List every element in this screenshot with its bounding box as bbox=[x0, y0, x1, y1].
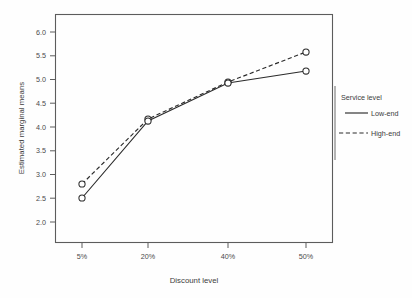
x-axis-title: Discount level bbox=[170, 276, 219, 285]
x-axis-ticks bbox=[82, 243, 306, 249]
y-axis-ticks bbox=[50, 32, 56, 222]
y-tick-labels: 6.0 5.5 5.0 4.5 4.0 3.5 3.0 2.5 2.0 bbox=[36, 28, 46, 227]
series-markers-high-end bbox=[79, 49, 309, 187]
legend-label-low-end: Low-end bbox=[371, 109, 399, 118]
y-tick-label: 5.0 bbox=[36, 75, 46, 84]
legend-label-high-end: High-end bbox=[371, 129, 400, 138]
x-tick-label: 5% bbox=[77, 252, 88, 261]
y-tick-label: 5.5 bbox=[36, 51, 46, 60]
legend-item-high-end[interactable]: High-end bbox=[339, 129, 400, 138]
estimated-marginal-means-chart: 6.0 5.5 5.0 4.5 4.0 3.5 3.0 2.5 2.0 Esti… bbox=[0, 0, 412, 298]
y-axis-title: Estimated marginal means bbox=[17, 82, 26, 174]
y-tick-label: 2.5 bbox=[36, 194, 46, 203]
y-tick-label: 2.0 bbox=[36, 218, 46, 227]
series-markers-low-end bbox=[79, 68, 309, 201]
series-line-high-end bbox=[82, 52, 306, 184]
x-tick-label: 40% bbox=[221, 252, 236, 261]
x-tick-label: 50% bbox=[299, 252, 314, 261]
y-tick-label: 3.0 bbox=[36, 170, 46, 179]
legend-title: Service level bbox=[341, 93, 382, 102]
y-tick-label: 4.5 bbox=[36, 99, 46, 108]
x-tick-labels: 5% 20% 40% 50% bbox=[77, 252, 314, 261]
y-tick-label: 6.0 bbox=[36, 28, 46, 37]
series-line-low-end bbox=[82, 71, 306, 198]
y-tick-label: 4.0 bbox=[36, 123, 46, 132]
plot-frame bbox=[56, 15, 333, 243]
y-tick-label: 3.5 bbox=[36, 146, 46, 155]
legend: Service level Low-end High-end bbox=[335, 86, 400, 160]
chart-container: 6.0 5.5 5.0 4.5 4.0 3.5 3.0 2.5 2.0 Esti… bbox=[0, 0, 412, 298]
legend-item-low-end[interactable]: Low-end bbox=[345, 109, 399, 118]
x-tick-label: 20% bbox=[141, 252, 156, 261]
